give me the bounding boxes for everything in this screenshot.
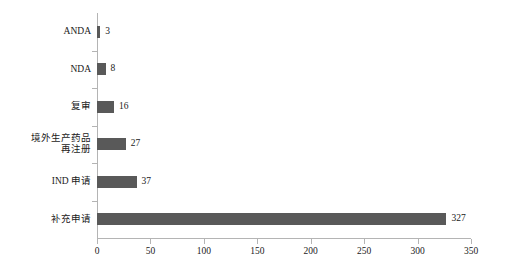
y-tick xyxy=(92,126,97,127)
x-tick xyxy=(471,239,472,244)
x-tick xyxy=(150,239,151,244)
x-tick-label: 0 xyxy=(95,247,100,257)
y-tick xyxy=(92,51,97,52)
bar xyxy=(97,138,126,150)
x-axis-line xyxy=(97,238,471,239)
bar-row: 27 xyxy=(97,138,471,150)
x-tick-label: 300 xyxy=(410,247,424,257)
category-label: 复审 xyxy=(0,101,91,113)
bar-row: 16 xyxy=(97,101,471,113)
bar xyxy=(97,176,137,188)
x-tick xyxy=(418,239,419,244)
bar-value-label: 3 xyxy=(105,27,110,37)
x-tick-label: 250 xyxy=(357,247,371,257)
category-label: NDA xyxy=(0,64,91,76)
y-axis-line xyxy=(97,13,98,238)
bar-value-label: 37 xyxy=(142,177,152,187)
bar-value-label: 27 xyxy=(131,140,141,150)
bar xyxy=(97,26,100,38)
y-tick xyxy=(92,163,97,164)
bar-row: 327 xyxy=(97,213,471,225)
bar-value-label: 8 xyxy=(111,65,116,75)
bar xyxy=(97,101,114,113)
x-tick xyxy=(311,239,312,244)
bar-value-label: 327 xyxy=(451,215,465,225)
bar xyxy=(97,213,446,225)
category-label: 境外生产药品 再注册 xyxy=(0,133,91,156)
y-tick xyxy=(92,201,97,202)
bar-row: 8 xyxy=(97,63,471,75)
x-tick xyxy=(97,239,98,244)
x-tick-label: 100 xyxy=(197,247,211,257)
x-tick-label: 50 xyxy=(146,247,156,257)
x-tick-label: 200 xyxy=(304,247,318,257)
bar-chart: 38162737327 ANDANDA复审境外生产药品 再注册IND 申请补充申… xyxy=(0,0,505,277)
category-label: IND 申请 xyxy=(0,176,91,188)
x-tick-label: 350 xyxy=(464,247,478,257)
bar-row: 37 xyxy=(97,176,471,188)
x-tick-label: 150 xyxy=(250,247,264,257)
x-tick xyxy=(364,239,365,244)
bar-row: 3 xyxy=(97,26,471,38)
bar-value-label: 16 xyxy=(119,102,129,112)
x-tick xyxy=(204,239,205,244)
x-tick xyxy=(257,239,258,244)
y-tick xyxy=(92,88,97,89)
category-label: ANDA xyxy=(0,26,91,38)
category-label: 补充申请 xyxy=(0,214,91,226)
bar xyxy=(97,63,106,75)
